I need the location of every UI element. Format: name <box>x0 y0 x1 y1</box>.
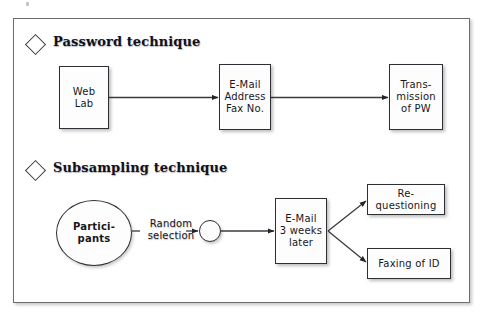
node-junction-point[interactable] <box>199 220 221 242</box>
figure-canvas: Password technique Web Lab E-Mail Addres… <box>0 0 488 315</box>
edge-label-random-selection: Random selection <box>139 218 203 242</box>
scan-artifact-speck <box>26 2 29 6</box>
node-email-address-fax[interactable]: E-Mail Address Fax No. <box>219 64 271 130</box>
node-transmission-of-pw[interactable]: Trans- mission of PW <box>389 64 443 130</box>
node-email-3-weeks-later[interactable]: E-Mail 3 weeks later <box>275 198 327 264</box>
node-faxing-of-id[interactable]: Faxing of ID <box>367 248 451 279</box>
node-web-lab[interactable]: Web Lab <box>59 66 109 129</box>
section-heading-password: Password technique <box>53 34 200 49</box>
node-requestioning[interactable]: Re- questioning <box>367 184 445 215</box>
node-participants[interactable]: Partici- pants <box>56 200 132 266</box>
section-heading-subsampling: Subsampling technique <box>53 160 227 175</box>
